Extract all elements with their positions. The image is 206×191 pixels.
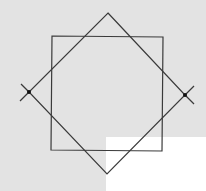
- diagram-canvas: [0, 0, 206, 191]
- left-vertex-point: [27, 90, 31, 94]
- right-vertex-point: [183, 93, 187, 97]
- white-region: [106, 137, 206, 191]
- geometry-figure: [0, 0, 206, 191]
